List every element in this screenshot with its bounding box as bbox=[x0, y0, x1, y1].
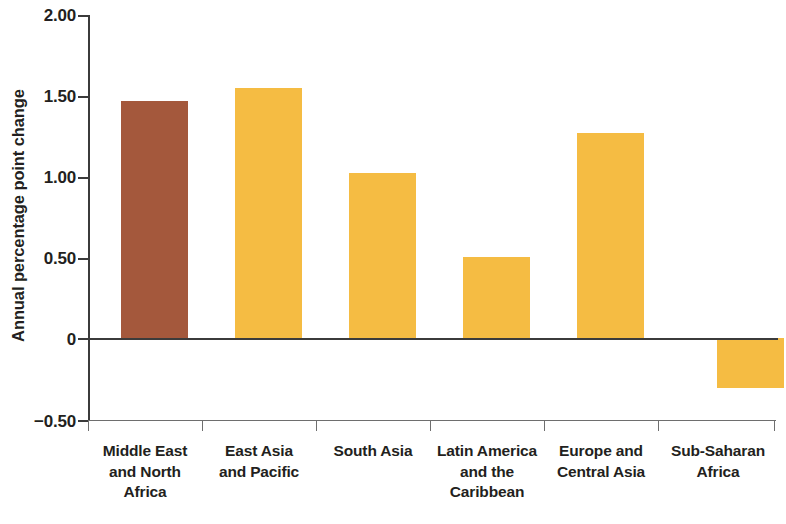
y-tick-label: 2.00 bbox=[14, 7, 76, 24]
y-axis-tick bbox=[78, 96, 88, 98]
y-axis-tick bbox=[78, 177, 88, 179]
x-axis-label-line: and North Africa bbox=[88, 462, 202, 503]
x-axis-label-line: Sub-Saharan bbox=[660, 441, 776, 462]
bar-sub-saharan-africa[interactable] bbox=[717, 338, 784, 388]
x-axis-label-line: South Asia bbox=[316, 441, 430, 462]
x-axis-tick bbox=[88, 421, 89, 431]
x-axis-tick bbox=[658, 421, 659, 431]
x-axis-label-line: Europe and bbox=[544, 441, 658, 462]
x-axis-label-sub-saharan-africa: Sub-SaharanAfrica bbox=[660, 441, 776, 482]
x-axis-label-latin-america-and-the-caribbean: Latin Americaand theCaribbean bbox=[430, 441, 544, 503]
y-tick-label: 1.00 bbox=[14, 169, 76, 186]
y-axis-line bbox=[88, 15, 90, 421]
x-axis-tick bbox=[430, 421, 431, 431]
x-axis-label-line: Africa bbox=[660, 462, 776, 483]
bar-latin-america-and-the-caribbean[interactable] bbox=[463, 257, 530, 338]
bar-east-asia-and-pacific[interactable] bbox=[235, 88, 302, 338]
x-axis-label-line: Central Asia bbox=[544, 462, 658, 483]
y-tick-label: −0.50 bbox=[14, 413, 76, 430]
x-axis-label-line: and Pacific bbox=[202, 462, 316, 483]
x-axis-label-line: and the bbox=[430, 462, 544, 483]
y-axis-tick bbox=[78, 420, 88, 422]
y-axis-tick bbox=[78, 15, 88, 17]
bar-chart: Annual percentage point change 2.00 1.50… bbox=[0, 0, 786, 524]
axis-bottom-rule bbox=[88, 420, 776, 421]
x-axis-label-south-asia: South Asia bbox=[316, 441, 430, 462]
x-axis-label-middle-east-and-north-africa: Middle Eastand North Africa bbox=[88, 441, 202, 503]
y-axis-tick bbox=[78, 338, 88, 340]
y-tick-label: 0.50 bbox=[14, 250, 76, 267]
x-axis-tick bbox=[202, 421, 203, 431]
x-axis-label-east-asia-and-pacific: East Asiaand Pacific bbox=[202, 441, 316, 482]
x-axis-label-line: Middle East bbox=[88, 441, 202, 462]
x-axis-tick bbox=[544, 421, 545, 431]
bar-europe-and-central-asia[interactable] bbox=[577, 133, 644, 338]
x-axis-tick bbox=[316, 421, 317, 431]
zero-baseline bbox=[88, 338, 778, 340]
x-axis-tick bbox=[774, 421, 775, 431]
bar-south-asia[interactable] bbox=[349, 173, 416, 338]
x-axis-label-line: Latin America bbox=[430, 441, 544, 462]
x-axis-label-line: Caribbean bbox=[430, 482, 544, 503]
y-axis-tick-labels: 2.00 1.50 1.00 0.50 0 −0.50 bbox=[8, 0, 76, 524]
x-axis-label-europe-and-central-asia: Europe andCentral Asia bbox=[544, 441, 658, 482]
x-axis-label-line: East Asia bbox=[202, 441, 316, 462]
y-tick-label: 1.50 bbox=[14, 88, 76, 105]
bar-middle-east-and-north-africa[interactable] bbox=[121, 101, 188, 338]
y-axis-tick bbox=[78, 258, 88, 260]
y-tick-label: 0 bbox=[14, 331, 76, 348]
